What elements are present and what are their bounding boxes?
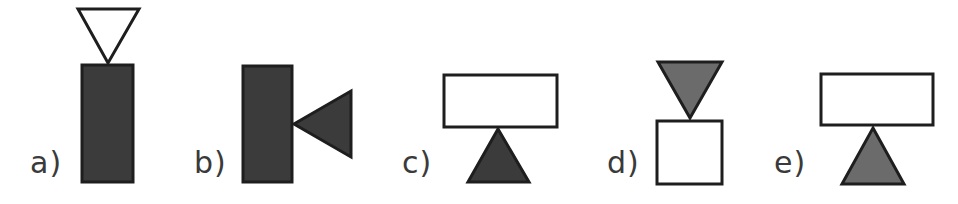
left-triangle-shape	[294, 91, 351, 157]
up-triangle-shape	[468, 129, 529, 182]
option-label-b: b)	[194, 148, 227, 178]
option-label-a: a)	[30, 148, 62, 178]
down-triangle-shape	[658, 62, 722, 118]
shape-options-figure: a)b)c)d)e)	[0, 0, 958, 204]
option-label-c: c)	[402, 148, 432, 178]
option-e	[821, 74, 933, 184]
up-triangle-shape	[842, 128, 904, 184]
tall-rectangle-shape	[82, 65, 133, 182]
wide-rectangle-shape	[444, 75, 557, 127]
option-label-d: d)	[607, 148, 640, 178]
tall-rectangle-shape	[243, 66, 292, 182]
down-triangle-shape	[78, 9, 139, 63]
option-label-e: e)	[774, 148, 806, 178]
option-a	[78, 9, 139, 182]
option-d	[657, 62, 722, 184]
shapes-canvas	[0, 0, 958, 204]
option-c	[444, 75, 557, 182]
square-shape	[657, 121, 722, 184]
option-b	[243, 66, 351, 182]
wide-rectangle-shape	[821, 74, 933, 125]
